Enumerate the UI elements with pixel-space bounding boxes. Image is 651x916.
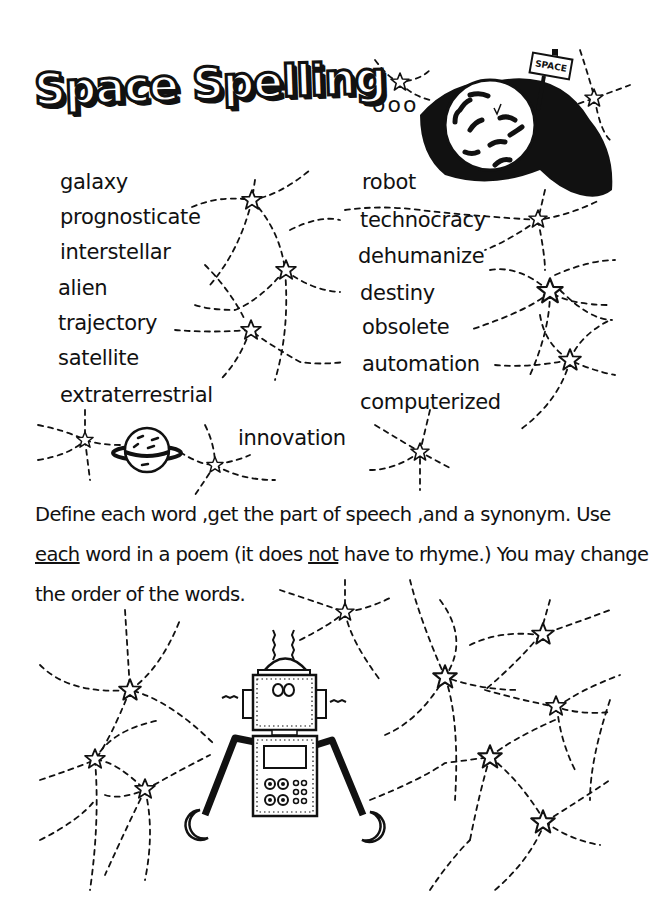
robot-illustration bbox=[0, 0, 651, 916]
